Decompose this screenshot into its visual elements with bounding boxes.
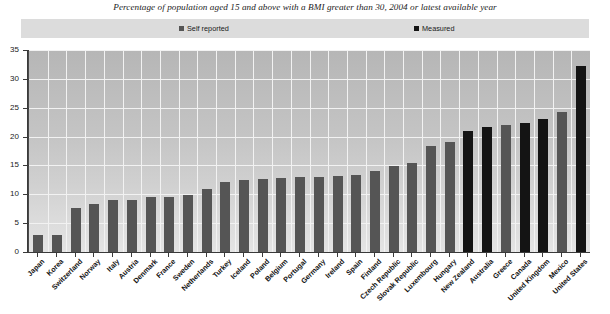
bar[interactable] (445, 142, 455, 252)
bar[interactable] (202, 189, 212, 252)
chart-legend: Self reported Measured (21, 19, 589, 38)
y-axis-tick-label: 25 (0, 104, 19, 112)
y-axis-tick-label: 20 (0, 133, 19, 141)
y-axis-tick (23, 108, 29, 109)
bmi-obesity-bar-chart: Percentage of population aged 15 and abo… (0, 0, 610, 314)
bar[interactable] (370, 171, 380, 252)
legend-label-self-reported: Self reported (187, 24, 229, 33)
x-axis-category-label: Japan (26, 257, 47, 278)
legend-swatch-measured-icon (414, 26, 419, 31)
y-axis-tick (23, 194, 29, 195)
bar[interactable] (407, 163, 417, 253)
bar[interactable] (351, 175, 361, 252)
bar[interactable] (239, 180, 249, 252)
y-axis-tick (23, 223, 29, 224)
bar[interactable] (520, 123, 530, 252)
bar[interactable] (389, 166, 399, 252)
bar[interactable] (258, 179, 268, 252)
bar[interactable] (127, 200, 137, 253)
bar[interactable] (295, 177, 305, 252)
bars-layer (29, 50, 590, 252)
bar[interactable] (276, 178, 286, 252)
y-axis-tick-label: 5 (0, 219, 19, 227)
bar[interactable] (501, 125, 511, 252)
y-axis-tick-label: 15 (0, 161, 19, 169)
bar[interactable] (71, 208, 81, 252)
x-axis-labels: JapanKoreaSwitzerlandNorwayItalyAustriaD… (0, 252, 610, 314)
bar[interactable] (33, 235, 43, 252)
y-axis-line (27, 50, 28, 253)
bar[interactable] (463, 131, 473, 252)
x-axis-category-label: Iceland (229, 257, 253, 281)
y-axis-tick (23, 79, 29, 80)
y-axis-tick (23, 50, 29, 51)
bar[interactable] (557, 112, 567, 252)
bar[interactable] (108, 200, 118, 252)
bar[interactable] (576, 66, 586, 252)
y-axis-tick (23, 137, 29, 138)
x-axis-category-label: Ireland (323, 257, 346, 280)
y-axis-tick-label: 30 (0, 75, 19, 83)
bar[interactable] (333, 176, 343, 252)
bar[interactable] (314, 177, 324, 252)
y-axis-tick-label: 35 (0, 46, 19, 54)
plot-area (28, 50, 590, 252)
legend-item-measured[interactable]: Measured (414, 19, 454, 38)
y-axis-tick-label: 10 (0, 190, 19, 198)
bar[interactable] (482, 127, 492, 252)
legend-label-measured: Measured (422, 24, 454, 33)
bar[interactable] (164, 197, 174, 252)
bar[interactable] (146, 197, 156, 252)
bar[interactable] (220, 182, 230, 252)
bar[interactable] (183, 195, 193, 252)
bar[interactable] (538, 119, 548, 252)
bar[interactable] (52, 235, 62, 252)
chart-title: Percentage of population aged 15 and abo… (0, 2, 610, 12)
legend-swatch-self-reported-icon (179, 26, 184, 31)
bar[interactable] (89, 204, 99, 252)
bar[interactable] (426, 146, 436, 252)
legend-item-self-reported[interactable]: Self reported (179, 19, 229, 38)
y-axis-tick (23, 165, 29, 166)
